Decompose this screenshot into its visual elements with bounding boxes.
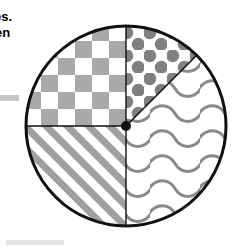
figure-canvas: es. en bbox=[0, 0, 245, 249]
patterned-circle-diagram bbox=[0, 0, 245, 249]
center-dot bbox=[121, 121, 131, 131]
left-gray-bar bbox=[0, 95, 19, 101]
bottom-gray-bar bbox=[6, 240, 64, 245]
